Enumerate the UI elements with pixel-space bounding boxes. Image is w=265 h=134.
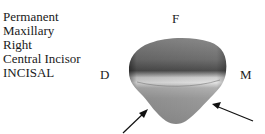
arrow-distal-contact xyxy=(123,109,148,133)
arrow-mesial-contact xyxy=(212,102,253,121)
tooth-figure xyxy=(0,0,265,134)
